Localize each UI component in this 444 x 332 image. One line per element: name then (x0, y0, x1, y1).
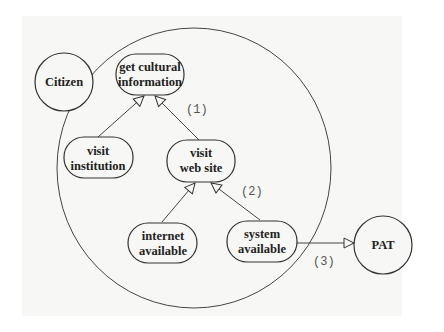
edge-label-2: (2) (241, 185, 263, 199)
actor-citizen[interactable]: Citizen (35, 53, 93, 111)
edge-label-3: (3) (313, 255, 335, 269)
goal-get-cultural-information[interactable]: get cultural information (116, 54, 184, 95)
goal-visit-institution[interactable]: visit institution (64, 137, 133, 178)
actor-citizen-label: Citizen (45, 75, 83, 89)
actor-pat[interactable]: PAT (354, 216, 412, 274)
goal-label-line2: available (238, 242, 286, 256)
edge-label-1: (1) (186, 103, 208, 117)
goal-label-line1: internet (142, 229, 185, 243)
goal-label-line2: institution (71, 159, 126, 173)
goal-label-line1: visit (190, 146, 213, 160)
goal-system-available[interactable]: system available (227, 221, 297, 262)
actor-pat-label: PAT (371, 238, 395, 252)
goal-label-line2: information (118, 75, 182, 89)
goal-label-line1: get cultural (119, 60, 181, 74)
edge-internet-to-visit-web-site (162, 183, 195, 222)
goal-label-line1: system (244, 227, 281, 241)
diagram-svg: Citizen PAT get cultural information vis… (0, 0, 444, 332)
diagram-canvas: Citizen PAT get cultural information vis… (0, 0, 444, 332)
edge-visit-institution-to-get-info (98, 96, 144, 137)
goal-internet-available[interactable]: internet available (128, 223, 197, 263)
goal-label-line2: web site (180, 161, 223, 175)
goal-label-line1: visit (87, 144, 110, 158)
goal-visit-web-site[interactable]: visit web site (167, 140, 235, 182)
goal-label-line2: available (139, 244, 187, 258)
